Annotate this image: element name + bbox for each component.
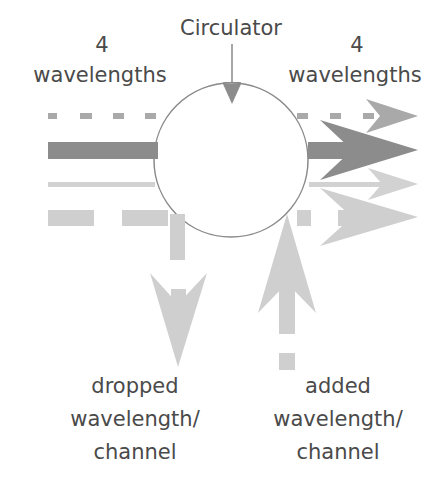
- output-wavelength-1-dotted: [297, 99, 418, 133]
- output-count-label: 4: [307, 33, 407, 58]
- added-channel-label: added wavelength/ channel: [248, 370, 428, 469]
- circulator-circle: [154, 83, 308, 237]
- input-wavelength-1-dotted: [48, 113, 156, 119]
- output-wavelength-2-thick: [308, 120, 418, 180]
- output-wavelength-4-dashed: [320, 188, 418, 246]
- add-path: [258, 214, 316, 370]
- added-label-line-3: channel: [248, 436, 428, 469]
- dropped-label-line-3: channel: [45, 436, 225, 469]
- drop-path: [150, 214, 207, 367]
- output-wavelength-4-dash-1: [297, 210, 311, 226]
- added-label-line-1: added: [248, 370, 428, 403]
- dropped-channel-label: dropped wavelength/ channel: [45, 370, 225, 469]
- dropped-label-line-1: dropped: [45, 370, 225, 403]
- input-unit-label: wavelengths: [10, 63, 190, 88]
- output-wavelength-4-arrowhead: [320, 188, 418, 246]
- input-count-label: 4: [52, 33, 152, 58]
- output-wavelength-3-thin: [309, 168, 418, 200]
- output-unit-label: wavelengths: [265, 63, 436, 88]
- input-wavelength-3-thin: [48, 182, 155, 187]
- added-label-line-2: wavelength/: [248, 403, 428, 436]
- dropped-label-line-2: wavelength/: [45, 403, 225, 436]
- circulator-label: Circulator: [151, 16, 311, 41]
- input-wavelength-4-dashed: [48, 210, 168, 226]
- input-wavelength-2-thick: [48, 142, 158, 159]
